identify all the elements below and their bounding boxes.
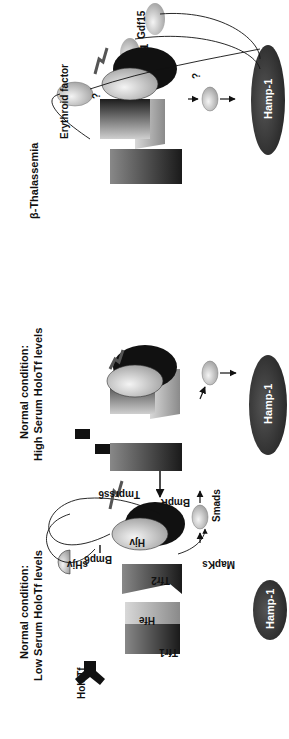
smads-shape	[202, 87, 218, 111]
hamp1-label: Hamp-1	[264, 589, 276, 629]
gdf15-shape	[145, 3, 165, 35]
tfr2-label: Tfr2	[151, 575, 170, 586]
hamp1-label: Hamp-1	[262, 384, 274, 424]
smads-shape	[202, 361, 218, 385]
hjv-disc	[107, 365, 163, 397]
panel2-title-line2: High Serum HoloTf levels	[32, 328, 44, 461]
bmpr-label: BmpR	[160, 497, 190, 508]
tmprss6-label: Tmprss6	[98, 489, 140, 500]
tfr1-block	[110, 149, 182, 184]
hfe-label: Hfe	[138, 615, 155, 626]
tmprss6-shape	[95, 48, 107, 74]
question-mark-2: ?	[191, 73, 202, 79]
panel1-title-line1: Normal condition:	[18, 565, 30, 659]
gdf15-label: Gdf15	[136, 10, 147, 39]
erythroid-factor-label: Erythroid factor	[59, 64, 70, 139]
panel-high-holotf: Normal condition: High Serum HoloTf leve…	[18, 328, 287, 471]
tfr1-block	[110, 443, 182, 471]
panel1-title-line2: Low Serum HoloTf levels	[32, 550, 44, 681]
question-mark-1: ?	[91, 93, 102, 99]
tfr1-label: Tfr1	[159, 647, 178, 658]
hamp1-label: Hamp-1	[262, 79, 274, 119]
smads-label: Smads	[211, 489, 222, 522]
panel3-title: β-Thalassemia	[28, 142, 40, 219]
mapks-label: MapKs	[202, 559, 235, 570]
smads-shape	[192, 505, 208, 529]
panel-low-holotf: Normal condition: Low Serum HoloTf level…	[18, 481, 287, 699]
shjv-label: sHjv	[66, 559, 88, 570]
panel2-title-line1: Normal condition:	[18, 345, 30, 439]
panel-beta-thalassemia: β-Thalassemia Erythroid factor ? Twsg1 G…	[28, 3, 285, 219]
hjv-label: Hjv	[129, 537, 145, 548]
hjv-disc	[102, 68, 158, 100]
hepcidin-regulation-diagram: Normal condition: Low Serum HoloTf level…	[0, 0, 289, 739]
